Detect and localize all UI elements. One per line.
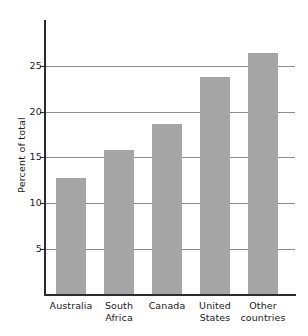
y-tick-label-25: 25 [30, 61, 43, 71]
x-tick-label-other-countries-line2: countries [232, 312, 294, 324]
y-tick-label-15: 15 [30, 152, 43, 162]
bar-canada [152, 124, 182, 295]
x-axis-line [44, 294, 296, 296]
x-tick-label-other-countries: Other countries [232, 300, 294, 323]
bar-australia [56, 178, 86, 295]
y-tick-label-10: 10 [30, 198, 43, 208]
y-tick-label-5: 5 [36, 244, 42, 254]
y-axis-line [44, 20, 46, 296]
bar-other-countries [248, 53, 278, 295]
y-axis-title: Percent of total [17, 105, 27, 205]
bar-south-africa [104, 150, 134, 295]
x-tick-label-other-countries-line1: Other [232, 300, 294, 312]
x-tick-label-south-africa-line2: Africa [88, 312, 150, 324]
y-tick-label-20: 20 [30, 107, 43, 117]
bar-united-states [200, 77, 230, 295]
bar-chart: 25 20 15 10 5 Percent of total Australia… [0, 0, 308, 336]
